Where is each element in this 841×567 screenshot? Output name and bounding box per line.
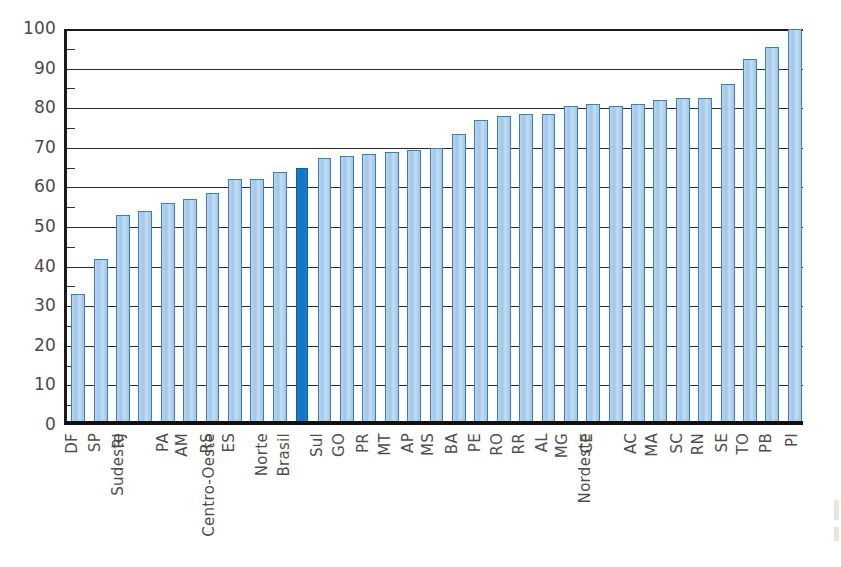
x-tick-label: AP [401,433,416,453]
x-tick-label: Sudeste [111,433,126,496]
y-tick-label: 80 [0,99,56,116]
x-tick-label: Centro-Oeste [202,433,217,537]
x-tick-label: RR [512,433,527,454]
x-tick-label: AL [536,433,551,452]
x-label-slot: RO [489,429,511,559]
bar [116,215,130,421]
x-tick-label: RO [489,433,504,456]
x-tick-label: Nordeste [577,433,592,503]
bar [519,114,533,421]
bars-layer [67,29,803,421]
y-tick-label: 0 [0,416,56,433]
x-label-slot: AM [176,429,198,559]
x-label-slot: RR [512,429,534,559]
x-tick-label: TO [736,433,751,455]
bar [161,203,175,421]
y-tick-label: 50 [0,218,56,235]
page-scan-artifact-bottom [834,527,839,541]
x-label-slot: MT [378,429,400,559]
plot-area [64,29,803,425]
x-label-slot: Nordeste [601,429,623,559]
bar [71,294,85,421]
x-tick-label: Brasil [277,433,292,477]
bar [452,134,466,421]
x-label-slot: MS [422,429,444,559]
bar [138,211,152,421]
x-tick-label: SP [88,433,103,452]
x-label-slot: DF [64,429,86,559]
x-tick-label: GO [332,433,347,457]
x-label-slot: RN [691,429,713,559]
bar [206,193,220,421]
bar [94,259,108,421]
x-tick-label: Sul [309,433,324,457]
bar [250,179,264,421]
x-tick-label: PB [759,433,774,453]
x-tick-label: PR [356,433,371,453]
bar [474,120,488,421]
x-label-slot: SC [669,429,691,559]
bar [698,98,712,421]
bar [228,179,242,421]
x-label-slot: PI [781,429,803,559]
x-tick-label: ES [222,433,237,453]
y-tick-label: 40 [0,258,56,275]
bar [586,104,600,421]
y-tick-label: 90 [0,60,56,77]
page-scan-artifact-top [834,500,839,520]
x-label-slot: GO [333,429,355,559]
bar [609,106,623,421]
x-tick-label: BA [445,433,460,454]
x-tick-label: PI [785,433,800,447]
x-tick-label: DF [65,433,80,454]
y-tick-label: 100 [0,20,56,37]
bar [653,100,667,421]
y-tick-label: 20 [0,337,56,354]
bar [743,59,757,421]
bar [430,148,444,421]
x-label-slot: PB [758,429,780,559]
x-label-slot: ES [221,429,243,559]
x-label-slot: PE [467,429,489,559]
y-tick-label: 70 [0,139,56,156]
bar-chart: 1009080706050403020100 DFSPRJSudestePAAM… [0,0,841,567]
x-tick-label: MS [422,433,437,456]
bar [542,114,556,421]
x-label-slot: BA [445,429,467,559]
x-tick-label: AC [624,433,639,454]
x-label-slot: SP [86,429,108,559]
x-tick-label: AM [175,433,190,457]
x-tick-label: Norte [255,433,270,476]
x-label-slot: TO [736,429,758,559]
x-label-slot: Sudeste [131,429,153,559]
x-tick-label: SE [715,433,730,453]
bar [497,116,511,421]
x-label-slot: SE [713,429,735,559]
bar [631,104,645,421]
bar [788,29,802,421]
bar [318,158,332,421]
bar [721,84,735,421]
x-axis-category-labels: DFSPRJSudestePAAMRSESCentro-OesteNorteBr… [64,429,803,567]
x-tick-label: PE [469,433,484,452]
bar [385,152,399,421]
x-label-slot: PR [355,429,377,559]
y-tick-label: 30 [0,297,56,314]
bar [340,156,354,421]
y-axis-tick-labels: 1009080706050403020100 [0,0,56,567]
bar [765,47,779,421]
bar [676,98,690,421]
y-tick-label: 10 [0,376,56,393]
bar [407,150,421,421]
bar-highlight [296,168,307,421]
bar [273,172,287,421]
x-tick-label: SC [670,433,685,454]
x-label-slot: MA [646,429,668,559]
y-tick-label: 60 [0,178,56,195]
x-tick-label: MG [555,433,570,458]
x-tick-label: RN [691,433,706,455]
bar [183,199,197,421]
bar [362,154,376,421]
bar [564,106,578,421]
x-tick-label: MT [377,433,392,456]
